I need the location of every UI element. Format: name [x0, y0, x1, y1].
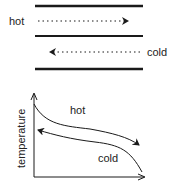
cold-flow-label: cold: [147, 46, 167, 58]
cold-curve: [38, 130, 142, 172]
y-axis-label: temperature: [15, 109, 27, 168]
hot-curve-label: hot: [70, 104, 85, 116]
hot-curve: [34, 104, 139, 145]
hot-flow-label: hot: [9, 15, 24, 27]
cold-curve-label: cold: [98, 152, 118, 164]
counter-current-diagram: hot cold temperature hot cold: [0, 0, 177, 189]
